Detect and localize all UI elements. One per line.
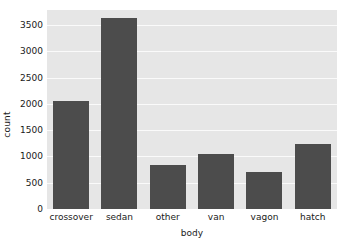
x-axis-tick-label: hatch: [289, 212, 337, 226]
x-axis-tick-label: sedan: [95, 212, 143, 226]
y-axis-tick-labels: 0500100015002000250030003500: [10, 10, 43, 209]
x-axis-tick-label: van: [192, 212, 240, 226]
x-axis-tick-label: crossover: [47, 212, 95, 226]
y-axis-tick-label: 0: [10, 204, 43, 214]
x-axis-tick-label: other: [144, 212, 192, 226]
bar: [246, 172, 282, 209]
bar: [101, 18, 137, 209]
y-axis-tick-label: 500: [10, 178, 43, 188]
y-axis-tick-label: 2000: [10, 99, 43, 109]
bar-chart-figure: count 0500100015002000250030003500 cross…: [0, 0, 348, 249]
bar: [295, 144, 331, 209]
x-axis-tick-label: vagon: [240, 212, 288, 226]
x-axis-label: body: [47, 228, 337, 238]
bar: [150, 165, 186, 209]
bar: [53, 101, 89, 209]
y-axis-tick-label: 3500: [10, 20, 43, 30]
y-axis-tick-label: 1500: [10, 125, 43, 135]
bar-series: [47, 10, 337, 209]
x-axis-tick-labels: crossoversedanothervanvagonhatch: [47, 212, 337, 226]
y-axis-tick-label: 2500: [10, 73, 43, 83]
plot-area: [47, 10, 337, 209]
y-axis-tick-label: 3000: [10, 46, 43, 56]
y-axis-tick-label: 1000: [10, 151, 43, 161]
bar: [198, 154, 234, 209]
